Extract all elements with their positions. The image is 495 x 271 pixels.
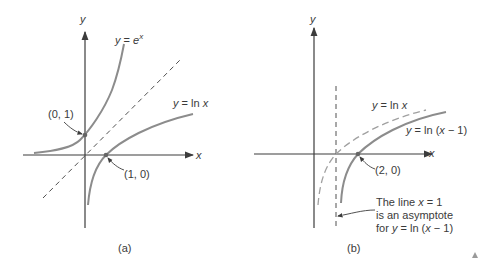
identity-line [43, 60, 180, 198]
asymptote-note-line3: for y = ln (x − 1) [376, 222, 453, 235]
point-2-0-label: (2, 0) [375, 164, 401, 177]
x-axis-label-b: x [429, 147, 435, 160]
corner-marker-icon [472, 252, 478, 258]
arrow-0-1 [64, 122, 82, 134]
x-axis-label-a: x [196, 149, 202, 162]
asymptote-note: The line x = 1 is an asymptote for y = l… [376, 196, 453, 235]
exp-curve [34, 44, 124, 153]
ln-curve-label: y = ln x [173, 97, 208, 110]
arrow-asymptote [338, 210, 375, 216]
y-axis-label-a: y [80, 13, 86, 26]
y-axis-label-b: y [310, 13, 316, 26]
ln-curve [88, 114, 193, 205]
asymptote-note-line2: is an asymptote [376, 209, 453, 222]
ln-shift-label: y = ln (x − 1) [406, 124, 467, 137]
arrow-2-0 [360, 157, 375, 169]
ln-dashed-label: y = ln x [372, 99, 407, 112]
caption-b: (b) [347, 242, 360, 254]
caption-a: (a) [118, 242, 131, 254]
point-1-0-label: (1, 0) [124, 168, 150, 181]
point-0-1-label: (0, 1) [48, 108, 74, 121]
asymptote-note-line1: The line x = 1 [376, 196, 453, 209]
point-0-1 [83, 133, 88, 138]
panel-a [23, 32, 193, 228]
point-2-0 [356, 152, 361, 157]
point-1-0 [104, 153, 109, 158]
exp-curve-label: y = ex [115, 30, 143, 47]
arrow-1-0 [108, 158, 124, 170]
